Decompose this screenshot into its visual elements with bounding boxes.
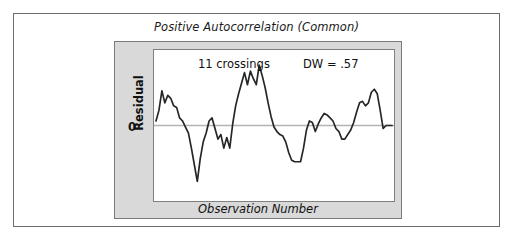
figure-title: Positive Autocorrelation (Common) — [13, 20, 500, 34]
residual-line-series — [156, 65, 392, 181]
x-axis-label: Observation Number — [114, 202, 402, 216]
figure-container: Positive Autocorrelation (Common) Residu… — [0, 0, 517, 246]
y-axis-tick-zero: 0 — [128, 120, 136, 134]
plot-area — [153, 49, 395, 202]
annotation-crossings: 11 crossings — [198, 57, 270, 71]
residual-series-plot — [154, 50, 394, 201]
annotation-durbin-watson: DW = .57 — [303, 57, 358, 71]
